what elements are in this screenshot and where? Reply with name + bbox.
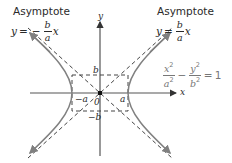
label-a: a <box>120 95 125 104</box>
right-asym-fraction: b a <box>176 20 184 42</box>
hyperbola-eq: = <box>204 70 213 81</box>
label-b: b <box>93 66 99 75</box>
left-asym-fraction: b a <box>44 20 52 42</box>
right-asym-eq: = <box>164 26 173 37</box>
y-axis-label: y <box>98 12 103 21</box>
label-neg-a: −a <box>75 95 88 104</box>
term1-fraction: x2 a2 <box>163 62 175 88</box>
label-neg-b: −b <box>88 113 101 122</box>
left-asym-num: b <box>44 20 52 32</box>
left-asym-rhs: x <box>53 26 59 37</box>
left-asymptote-caption: Asymptote <box>13 6 70 17</box>
left-asymptote-equation: y = − b a x <box>11 20 59 42</box>
right-asym-num: b <box>176 20 184 32</box>
term2-num-exp: 2 <box>196 61 200 69</box>
left-asym-sign: − <box>32 26 41 37</box>
left-asym-den: a <box>45 32 51 43</box>
term1-den-exp: 2 <box>170 76 174 84</box>
right-asymptote-equation: y = b a x <box>156 20 191 42</box>
right-asym-rhs: x <box>185 26 191 37</box>
x-axis-label: x <box>180 88 185 97</box>
origin-point <box>98 91 102 95</box>
left-asym-lhs: y <box>11 26 17 37</box>
hyperbola-equation: x2 a2 − y2 b2 = 1 <box>162 62 221 88</box>
term1-num-exp: 2 <box>169 61 173 69</box>
right-asymptote-caption: Asymptote <box>157 6 214 17</box>
hyperbola-rhs: 1 <box>215 70 222 81</box>
left-asym-eq: = <box>19 26 28 37</box>
hyperbola-minus: − <box>178 70 187 81</box>
term2-den-exp: 2 <box>196 76 200 84</box>
hyperbola-diagram: Asymptote y = − b a x Asymptote y = b a … <box>0 0 232 163</box>
right-asym-lhs: y <box>156 26 162 37</box>
right-asym-den: a <box>177 32 183 43</box>
label-origin: 0 <box>94 98 100 107</box>
term2-fraction: y2 b2 <box>189 62 201 88</box>
